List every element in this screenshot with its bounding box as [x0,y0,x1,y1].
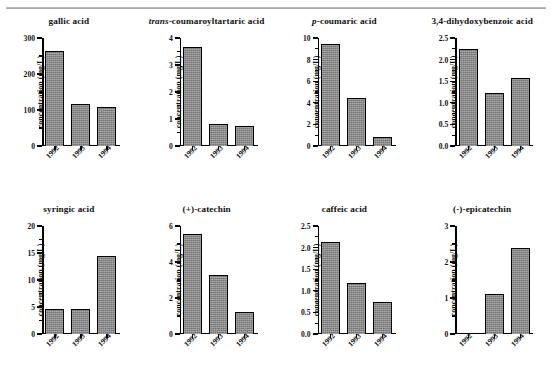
bar [209,275,228,334]
x-axis-labels: 199219931994 [42,340,120,370]
y-axis-tick-label: 2 [169,88,173,97]
plot-area: 0246810concentration (mg/L) [318,38,396,146]
scan-rule-divider [6,7,546,9]
bar-slot [318,226,344,334]
x-axis-tick-label: 1994 [372,144,389,161]
bar [373,302,392,334]
x-axis-tick-label: 1993 [346,144,363,161]
y-axis-tick-label: 0.5 [439,120,449,129]
y-axis-tick-label: 0 [31,142,35,151]
bar-slot [206,226,232,334]
chart-title-text: -coumaroyltartaric acid [169,16,265,26]
y-axis-tick-label: 0.0 [439,142,449,151]
bar-slot [481,226,507,334]
x-axis-tick-label: 1994 [234,332,251,349]
y-axis-tick-label: 0.5 [301,308,311,317]
chart-panel: caffeic acid0.00.51.01.52.02.5concentrat… [276,200,414,372]
y-axis-tick-label: 5 [31,303,35,312]
x-axis-labels: 199219931994 [180,340,258,370]
y-axis-tick-label: 2.5 [301,222,311,231]
y-axis-tick-label: 2.5 [439,34,449,43]
chart-panel: (+)-catechin0246concentration (mg/L)1992… [138,200,276,372]
bar [347,98,366,146]
y-axis-tick-label: 8 [307,55,311,64]
plot-area: 05101520concentration (mg/L) [42,226,120,334]
x-axis-tick-label: 1994 [509,144,526,161]
x-axis-tick-label: 1994 [372,332,389,349]
x-axis-tick-label: 1993 [483,332,500,349]
chart-title: gallic acid [0,16,138,26]
y-axis-tick-label: 0 [31,330,35,339]
bar-slot [318,38,344,146]
y-axis-tick-label: 2 [307,120,311,129]
bar [321,242,340,334]
y-axis-tick-label: 0 [169,330,173,339]
y-axis-tick-label: 15 [27,249,35,258]
plot-area: 0123concentration (mg/L) [455,226,533,334]
y-axis-tick-label: 2.0 [301,243,311,252]
y-axis-tick-label: 4 [169,34,173,43]
bar-slot [370,38,396,146]
y-axis-tick-label: 0 [169,142,173,151]
y-axis-tick-label: 1.0 [439,98,449,107]
bar-slot [180,38,206,146]
x-axis-tick-label: 1992 [457,332,474,349]
chart-title: (-)-epicatechin [413,204,551,214]
chart-panel: gallic acid0100200300concentration (mg/L… [0,12,138,200]
bar [97,256,116,334]
bar-slot [42,226,68,334]
bar-slot [344,226,370,334]
bar-series [455,38,533,146]
chart-title: 3,4-dihydoxybenzoic acid [413,16,551,26]
y-axis-tick-label: 300 [24,34,35,43]
y-axis-tick-label: 4 [169,258,173,267]
y-axis-tick-label: 6 [169,222,173,231]
x-axis-tick-label: 1992 [182,332,199,349]
bar-slot [370,226,396,334]
y-axis-tick-label: 4 [307,98,311,107]
bar-slot [180,226,206,334]
x-axis-labels: 199219931994 [180,152,258,182]
bar [459,49,478,146]
bar-slot [42,38,68,146]
x-axis-tick-label: 1993 [208,144,225,161]
chart-panel: (-)-epicatechin0123concentration (mg/L)1… [413,200,551,372]
chart-title: (+)-catechin [138,204,276,214]
bar-series [180,38,258,146]
bar-slot [481,38,507,146]
bar-slot [455,226,481,334]
chart-panel: trans-coumaroyltartaric acid01234concent… [138,12,276,200]
chart-title: trans-coumaroyltartaric acid [138,16,276,26]
x-axis-tick-label: 1992 [182,144,199,161]
y-axis-tick-label: 1.5 [301,265,311,274]
plot-area: 0246concentration (mg/L) [180,226,258,334]
y-axis-tick-label: 1 [169,115,173,124]
chart-title: p-coumaric acid [276,16,414,26]
plot-area: 0.00.51.01.52.02.5concentration (mg/L) [318,226,396,334]
bar-slot [455,38,481,146]
x-axis-labels: 199219931994 [318,152,396,182]
x-axis-labels: 199219931994 [455,340,533,370]
y-axis-tick-label: 2 [169,294,173,303]
x-axis-tick-label: 1992 [44,332,61,349]
bar-slot [507,226,533,334]
x-axis-tick-label: 1993 [346,332,363,349]
x-axis-tick-label: 1993 [208,332,225,349]
plot-area: 01234concentration (mg/L) [180,38,258,146]
x-axis-tick-label: 1994 [234,144,251,161]
bar-slot [507,38,533,146]
x-axis-tick-label: 1993 [483,144,500,161]
bar-series [42,226,120,334]
y-axis-tick-label: 20 [27,222,35,231]
bar [511,78,530,146]
figure-multi-panel-bar-charts: gallic acid0100200300concentration (mg/L… [0,0,551,372]
x-axis-labels: 199219931994 [318,340,396,370]
y-axis-tick-label: 0.0 [301,330,311,339]
y-axis-tick-label: 3 [169,61,173,70]
bar-slot [94,38,120,146]
x-axis-tick-label: 1992 [457,144,474,161]
x-axis-tick-label: 1994 [96,332,113,349]
x-axis-tick-label: 1994 [96,144,113,161]
bar-series [42,38,120,146]
chart-title-italic-prefix: trans [149,16,169,26]
